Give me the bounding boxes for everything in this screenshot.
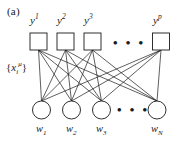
unit-node-label-w2: w2 <box>66 124 77 135</box>
output-node-label-y1: y1 <box>30 15 39 26</box>
output-node-label-yp: yp <box>153 15 162 26</box>
output-node-y2 <box>57 33 74 50</box>
unit-node-w1 <box>33 101 51 119</box>
top-layer-ellipsis: • • • <box>113 36 146 49</box>
output-node-y1 <box>30 33 47 50</box>
edge-y2-w1 <box>42 50 66 101</box>
bottom-layer-ellipsis: • • • <box>117 103 150 116</box>
output-node-y3 <box>84 33 101 50</box>
figure-panel-a: (a) <box>0 0 185 145</box>
edge-yp-wN <box>157 50 161 101</box>
unit-node-label-w1: w1 <box>36 124 47 135</box>
edge-y3-w2 <box>72 50 93 101</box>
unit-node-label-wN: wN <box>151 124 163 135</box>
edge-y1-w3 <box>39 50 102 101</box>
unit-node-wN <box>148 101 166 119</box>
input-set-label: {xiμ} <box>6 62 27 73</box>
edge-yp-w3 <box>102 50 162 101</box>
edge-group <box>39 50 162 101</box>
edge-y3-w3 <box>93 50 102 101</box>
unit-node-w3 <box>93 101 111 119</box>
output-node-label-y3: y3 <box>84 15 93 26</box>
edge-y1-wN <box>39 50 158 101</box>
unit-node-w2 <box>63 101 81 119</box>
top-node-group <box>30 33 170 50</box>
edge-y1-w1 <box>39 50 42 101</box>
unit-node-label-w3: w3 <box>96 124 107 135</box>
output-node-yp <box>153 33 170 50</box>
output-node-label-y2: y2 <box>57 15 66 26</box>
